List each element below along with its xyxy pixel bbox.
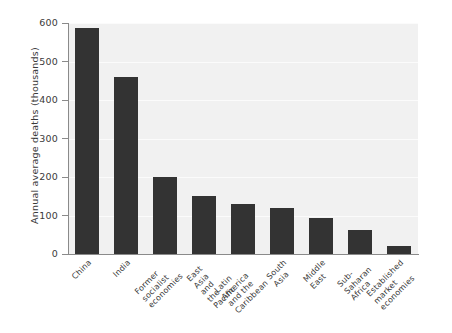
bar <box>114 77 138 254</box>
y-tick-label: 200 <box>0 171 58 182</box>
y-tick-label: 400 <box>0 94 58 105</box>
bar <box>153 177 177 254</box>
y-tick-label: 100 <box>0 210 58 221</box>
y-tick-mark <box>62 100 68 101</box>
x-tick-label-text: Former socialist economies <box>133 258 185 310</box>
y-tick-mark <box>62 61 68 62</box>
x-tick-label-text: China <box>71 258 95 282</box>
y-tick-mark <box>62 177 68 178</box>
y-tick-label: 0 <box>0 248 58 259</box>
x-tick-label-text: Middle East <box>301 258 334 291</box>
bar-chart-figure: Annual average deaths (thousands) 010020… <box>0 0 452 333</box>
gridline <box>68 23 418 24</box>
gridline <box>68 62 418 63</box>
y-axis-line <box>68 23 69 255</box>
y-tick-mark <box>62 215 68 216</box>
bar <box>231 204 255 254</box>
y-tick-label: 600 <box>0 17 58 28</box>
y-tick-mark <box>62 138 68 139</box>
y-tick-label: 300 <box>0 133 58 144</box>
y-tick-mark <box>62 23 68 24</box>
x-tick-label-text: India <box>112 258 133 279</box>
bar <box>75 28 99 254</box>
y-tick-label: 500 <box>0 56 58 67</box>
y-tick-mark <box>62 254 68 255</box>
